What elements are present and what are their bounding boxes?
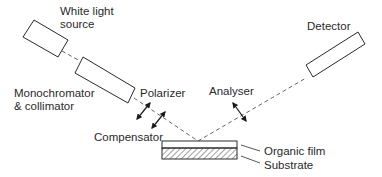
white-light-label-line2: source [60, 18, 114, 31]
substrate-layer [162, 148, 237, 159]
analyser-arrow-icon [233, 103, 246, 121]
polarizer-label: Polarizer [140, 87, 185, 100]
detector-box [306, 32, 365, 77]
substrate-label: Substrate [264, 159, 313, 172]
organic-film-layer [162, 141, 237, 148]
monochromator-label-line1: Monochromator [14, 87, 95, 100]
monochromator-label: Monochromator & collimator [14, 87, 95, 113]
compensator-label: Compensator [94, 131, 163, 144]
organic-film-leader [241, 145, 260, 151]
analyser-label: Analyser [209, 85, 254, 98]
monochromator-label-line2: & collimator [14, 100, 95, 113]
organic-film-label: Organic film [264, 145, 325, 158]
detector-label: Detector [307, 20, 350, 33]
ellipsometry-diagram: White light source Monochromator & colli… [0, 0, 382, 177]
beam-source-to-mono [62, 51, 80, 61]
white-light-label-line1: White light [60, 5, 114, 18]
substrate-leader [241, 156, 260, 163]
polarizer-arrow-icon [137, 103, 150, 119]
white-light-source-label: White light source [60, 5, 114, 31]
